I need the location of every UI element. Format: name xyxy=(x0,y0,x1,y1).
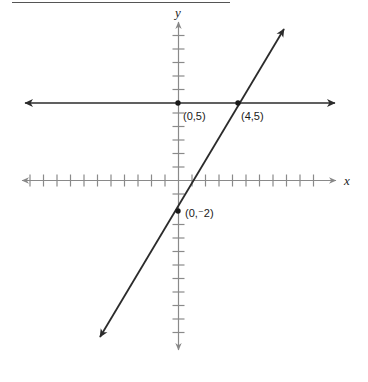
point-label-0-5: (0,5) xyxy=(183,110,206,122)
point-dot-0-neg2 xyxy=(175,208,180,213)
point-dot-4-5 xyxy=(235,100,240,105)
point-dot-0-5 xyxy=(175,100,180,105)
x-axis-label: x xyxy=(343,173,350,188)
point-label-4-5: (4,5) xyxy=(241,110,264,122)
coordinate-axes xyxy=(22,22,336,350)
diagonal-line xyxy=(100,29,284,337)
point-label-0-neg2: (0,⁻2) xyxy=(185,207,214,219)
y-axis-label: y xyxy=(173,5,181,20)
